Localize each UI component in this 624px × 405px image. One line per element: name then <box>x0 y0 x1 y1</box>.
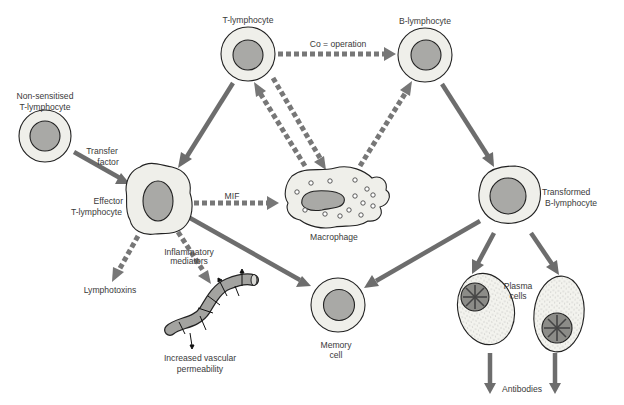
non-sensitised-t-cell <box>19 110 71 162</box>
plasma-label-2: cells <box>509 291 526 301</box>
macrophage-label: Macrophage <box>310 232 358 242</box>
lymphotoxins-arrow <box>112 236 138 282</box>
memory-cell <box>311 278 365 332</box>
b-lymphocyte-cell <box>398 28 452 82</box>
transformed-label-1: Transformed <box>542 187 591 197</box>
lymphotoxins-label: Lymphotoxins <box>84 285 137 295</box>
antibodies-label: Antibodies <box>502 384 542 394</box>
memory-label-1: Memory <box>320 340 352 350</box>
transfer-factor-label-1: Transfer <box>86 146 118 156</box>
mif-label: MIF <box>225 191 240 201</box>
blood-vessel-icon <box>170 269 257 349</box>
transformed-to-memory-arrow <box>364 221 480 288</box>
vascular-label-1: Increased vascular <box>164 353 236 363</box>
effector-label-2: T-lymphocyte <box>71 207 122 217</box>
memory-label-2: cell <box>330 350 343 360</box>
plasma-label-1: Plasma <box>504 281 533 291</box>
transformed-to-plasma1-arrow <box>472 233 494 274</box>
t-lymphocyte-cell <box>221 27 275 81</box>
b-to-transformed-arrow <box>442 84 494 167</box>
vascular-label-2: permeability <box>177 364 224 374</box>
plasma-cell-2 <box>530 274 588 355</box>
non-sensitised-label-1: Non-sensitised <box>17 91 74 101</box>
effector-label-1: Effector <box>94 196 124 206</box>
plasma-cell-1 <box>450 267 522 350</box>
t-to-effector-arrow <box>178 83 233 168</box>
non-sensitised-label-2: T-lymphocyte <box>19 102 70 112</box>
transformed-b-cell <box>479 166 541 223</box>
cooperation-label: Co = operation <box>310 39 367 49</box>
macrophage-cell <box>285 167 389 228</box>
immune-response-diagram: T-lymphocyte B-lymphocyte Co = operation… <box>0 0 624 405</box>
transformed-label-2: B-lymphocyte <box>545 198 597 208</box>
plasma2-antibodies-arrow <box>549 353 561 394</box>
transfer-factor-label-2: factor <box>97 157 119 167</box>
effector-t-cell <box>126 163 192 234</box>
transformed-to-plasma2-arrow <box>531 233 559 275</box>
macrophage-to-b-arrow <box>360 81 412 166</box>
t-lymphocyte-label: T-lymphocyte <box>222 15 273 25</box>
b-lymphocyte-label: B-lymphocyte <box>399 16 451 26</box>
cooperation-arrow <box>278 47 396 61</box>
inflammatory-label-2: mediators <box>170 256 208 266</box>
plasma1-antibodies-arrow <box>484 353 496 394</box>
